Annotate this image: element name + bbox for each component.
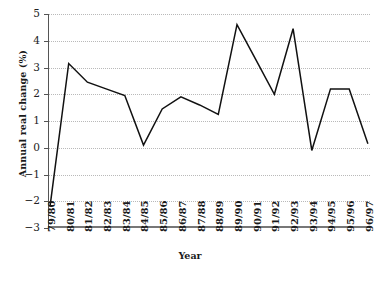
x-axis-tick-label: 85/86: [158, 201, 169, 232]
x-axis-tick-label: 89/90: [233, 201, 244, 232]
y-axis-tick-label: 5: [14, 7, 40, 19]
x-axis-tick-label: 79/80: [46, 201, 57, 232]
y-axis-tick-label: −3: [14, 221, 40, 233]
x-axis-tick-label: 88/89: [214, 201, 225, 232]
y-axis-tick-label: 4: [14, 34, 40, 46]
x-axis-tick-label: 83/84: [121, 201, 132, 232]
x-axis-tick-label: 90/91: [252, 201, 263, 232]
y-axis-tick-label: 0: [14, 141, 40, 153]
x-axis-title: Year: [0, 250, 380, 261]
x-axis-tick-label: 94/95: [326, 201, 337, 232]
x-axis-tick-label: 93/94: [308, 201, 319, 232]
y-axis-tick-label: 2: [14, 87, 40, 99]
x-axis-tick-label: 91/92: [270, 201, 281, 232]
x-axis-tick-label: 95/96: [345, 201, 356, 232]
x-axis-tick-label: 80/81: [65, 201, 76, 232]
y-axis-tick-label: 3: [14, 61, 40, 73]
x-axis-tick-label: 87/88: [196, 201, 207, 232]
series-line-annual-real-change: [48, 14, 370, 228]
x-axis-tick-label: 82/83: [102, 201, 113, 232]
x-axis-tick-label: 92/93: [289, 201, 300, 232]
x-axis-tick-label: 96/97: [364, 201, 375, 232]
y-axis-tick-label: 1: [14, 114, 40, 126]
line-chart: Annual real change (%) 543210−1−2−3 79/8…: [0, 0, 380, 284]
plot-area: [48, 14, 370, 228]
y-axis-tick-label: −2: [14, 194, 40, 206]
x-axis-tick-label: 86/87: [177, 201, 188, 232]
series-path: [50, 25, 368, 207]
x-axis-tick-label: 84/85: [139, 201, 150, 232]
x-axis-tick-label: 81/82: [83, 201, 94, 232]
y-axis-tick-label: −1: [14, 168, 40, 180]
